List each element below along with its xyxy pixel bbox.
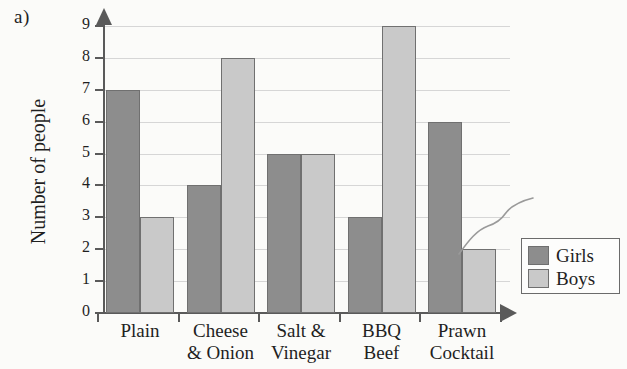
legend-swatch-girls bbox=[528, 246, 549, 265]
bar-boys-1 bbox=[221, 58, 255, 313]
category-label-0: Plain bbox=[95, 320, 185, 342]
bar-girls-1 bbox=[187, 185, 221, 313]
category-label-1: Cheese & Onion bbox=[176, 320, 266, 364]
y-axis-title: Number of people bbox=[27, 87, 50, 257]
y-axis-line bbox=[103, 22, 105, 314]
y-tick-label: 8 bbox=[66, 47, 90, 67]
y-tick-label: 4 bbox=[66, 174, 90, 194]
bar-girls-0 bbox=[106, 90, 140, 313]
y-tick-label: 1 bbox=[66, 270, 90, 290]
y-tick-label: 5 bbox=[66, 143, 90, 163]
category-label-2: Salt & Vinegar bbox=[256, 320, 346, 364]
bar-boys-4 bbox=[462, 249, 496, 313]
bar-boys-3 bbox=[382, 26, 416, 313]
y-tick-mark bbox=[95, 121, 104, 123]
category-label-4: Prawn Cocktail bbox=[417, 320, 507, 364]
bar-boys-0 bbox=[140, 217, 174, 313]
y-tick-mark bbox=[95, 280, 104, 282]
y-tick-label: 3 bbox=[66, 206, 90, 226]
y-tick-label: 7 bbox=[66, 79, 90, 99]
bar-girls-2 bbox=[267, 154, 301, 314]
gridline bbox=[104, 58, 510, 59]
y-tick-label: 2 bbox=[66, 238, 90, 258]
y-tick-mark bbox=[95, 216, 104, 218]
y-tick-mark bbox=[95, 25, 104, 27]
legend-label-girls: Girls bbox=[556, 246, 594, 265]
bar-boys-2 bbox=[301, 154, 335, 314]
bar-girls-3 bbox=[348, 217, 382, 313]
y-axis-arrow-icon bbox=[96, 8, 112, 25]
gridline bbox=[104, 90, 510, 91]
legend-label-boys: Boys bbox=[556, 269, 595, 288]
legend-item-girls: Girls bbox=[528, 244, 619, 267]
bar-girls-4 bbox=[428, 122, 462, 313]
y-tick-mark bbox=[95, 248, 104, 250]
legend-swatch-boys bbox=[528, 269, 549, 288]
legend-item-boys: Boys bbox=[528, 267, 619, 290]
y-tick-label: 6 bbox=[66, 111, 90, 131]
category-label-3: BBQ Beef bbox=[337, 320, 427, 364]
chart-legend: Girls Boys bbox=[521, 238, 620, 294]
y-tick-label: 9 bbox=[66, 15, 90, 35]
y-tick-mark bbox=[95, 57, 104, 59]
bar-chart-figure: a) 0123456789 Number of people PlainChee… bbox=[0, 0, 627, 369]
y-tick-mark bbox=[95, 184, 104, 186]
gridline bbox=[104, 26, 510, 27]
y-tick-label: 0 bbox=[66, 302, 90, 322]
plot-area: 0123456789 Number of people PlainCheese … bbox=[0, 0, 627, 369]
y-tick-mark bbox=[95, 89, 104, 91]
y-tick-mark bbox=[95, 153, 104, 155]
